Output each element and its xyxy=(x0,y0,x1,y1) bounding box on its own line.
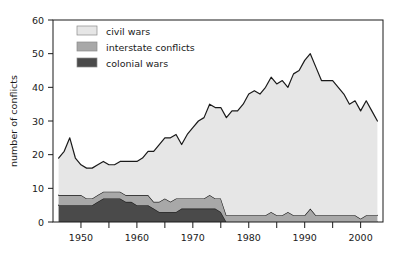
y-tick-label: 60 xyxy=(32,15,44,26)
x-tick-label: 1950 xyxy=(69,232,93,243)
y-tick-label: 0 xyxy=(38,217,44,228)
legend-label: colonial wars xyxy=(106,58,168,69)
x-tick-label: 1990 xyxy=(293,232,317,243)
legend-label: civil wars xyxy=(106,26,150,37)
conflicts-stacked-area-chart: 0102030405060 195019601970198019902000 n… xyxy=(0,0,401,265)
y-tick-label: 20 xyxy=(32,149,44,160)
legend-swatch-civil-wars xyxy=(77,26,97,35)
x-tick-label: 1970 xyxy=(181,232,205,243)
y-axis-title: number of conflicts xyxy=(8,75,19,167)
y-tick-label: 30 xyxy=(32,116,44,127)
y-tick-label: 50 xyxy=(32,48,44,59)
x-tick-label: 1960 xyxy=(125,232,149,243)
y-tick-label: 40 xyxy=(32,82,44,93)
legend-swatch-colonial-wars xyxy=(77,58,97,67)
legend-label: interstate conflicts xyxy=(106,42,195,53)
y-tick-label: 10 xyxy=(32,183,44,194)
legend-swatch-interstate-conflicts xyxy=(77,42,97,51)
x-tick-label: 2000 xyxy=(349,232,373,243)
chart-container: 0102030405060 195019601970198019902000 n… xyxy=(0,0,401,265)
x-tick-label: 1980 xyxy=(237,232,261,243)
